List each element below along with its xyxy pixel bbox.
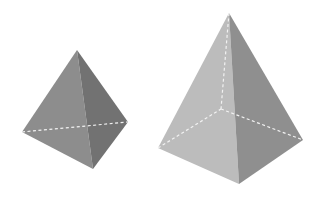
pyramid-right-face [229,13,303,184]
pyramid-left-face [158,13,239,184]
geometry-figure [0,0,320,198]
square-pyramid [158,13,303,184]
triangular-pyramid [22,50,128,169]
